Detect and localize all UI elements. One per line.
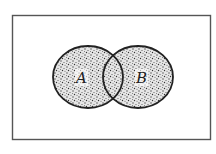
set-a-label: A — [74, 69, 87, 87]
set-b-label: B — [135, 69, 147, 87]
venn-diagram: A B — [0, 0, 216, 154]
